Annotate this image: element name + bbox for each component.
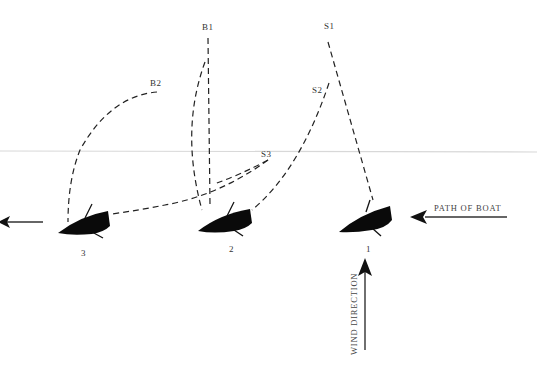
boat-3 xyxy=(58,204,110,238)
wind-direction-label: WIND DIRECTION xyxy=(349,273,359,355)
track-s2-to-boat-2 xyxy=(252,83,329,210)
track-b1-to-boat-2 xyxy=(208,38,210,205)
track-s3-to-boat-3 xyxy=(112,160,268,214)
track-b1-curve-to-boat-2 xyxy=(192,62,205,210)
exit-arrow-left xyxy=(0,216,43,228)
tacking-diagram: B1 B2 S1 S2 S3 3 2 1 PATH OF BOAT xyxy=(0,0,537,375)
path-of-boat-label: PATH OF BOAT xyxy=(434,203,501,213)
track-b2-to-boat-3 xyxy=(68,92,157,222)
label-s2: S2 xyxy=(312,85,323,95)
label-b2: B2 xyxy=(150,78,162,88)
wind-direction-arrow xyxy=(358,258,372,350)
boat-1-label: 1 xyxy=(366,244,371,254)
boat-3-label: 3 xyxy=(81,248,86,258)
boat-2 xyxy=(198,202,252,236)
track-s1-to-boat-1 xyxy=(328,42,373,200)
boat-2-label: 2 xyxy=(229,244,234,254)
track-s3-to-boat-2 xyxy=(214,160,268,184)
label-b1: B1 xyxy=(202,22,214,32)
boat-1 xyxy=(339,200,392,236)
label-s1: S1 xyxy=(324,21,335,31)
label-s3: S3 xyxy=(261,149,272,159)
